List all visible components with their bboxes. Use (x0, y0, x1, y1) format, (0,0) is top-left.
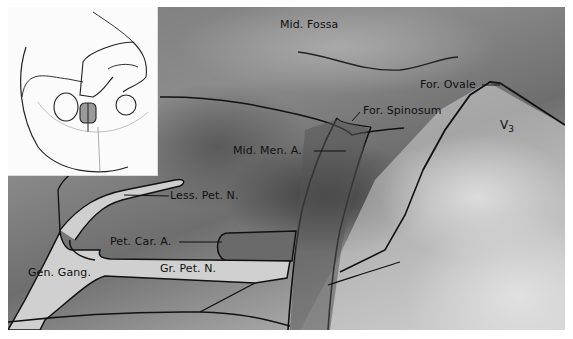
label-mid-men-a: Mid. Men. A. (233, 144, 302, 157)
skull-sketch-icon (8, 7, 157, 175)
label-for-ovale: For. Ovale (420, 78, 476, 91)
label-pet-car-a: Pet. Car. A. (110, 235, 171, 248)
label-less-pet-n: Less. Pet. N. (170, 189, 239, 202)
label-gen-gang: Gen. Gang. (28, 266, 91, 279)
label-mid-fossa: Mid. Fossa (280, 18, 338, 31)
label-for-spinosum: For. Spinosum (363, 104, 442, 117)
label-v3-sub: 3 (508, 124, 514, 134)
label-v3: V3 (500, 118, 514, 134)
orientation-inset (8, 7, 158, 176)
label-gr-pet-n: Gr. Pet. N. (160, 262, 216, 275)
